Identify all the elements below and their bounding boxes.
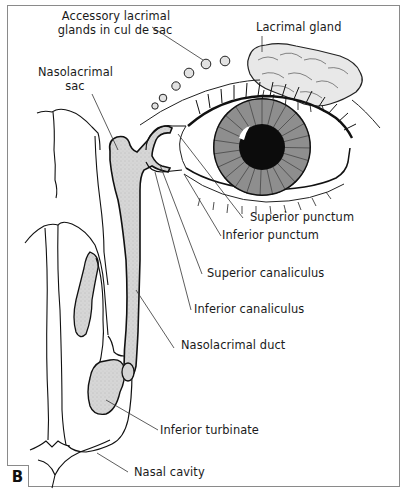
label-lacrimal-gland: Lacrimal gland <box>256 21 342 34</box>
middle-turbinate <box>74 252 98 337</box>
label-superior-punctum: Superior punctum <box>250 211 354 224</box>
duct-opening <box>122 363 134 381</box>
label-accessory-glands-line2: glands in cul de sac <box>48 24 182 37</box>
label-nasolacrimal-duct: Nasolacrimal duct <box>181 339 285 352</box>
label-superior-canaliculus: Superior canaliculus <box>207 267 324 280</box>
label-nasal-cavity: Nasal cavity <box>134 466 205 479</box>
leader-lines <box>92 27 262 472</box>
label-nasolacrimal-sac-line1: Nasolacrimal <box>38 66 112 79</box>
label-inferior-turbinate: Inferior turbinate <box>160 424 259 437</box>
label-nasolacrimal-sac-line2: sac <box>38 80 112 93</box>
label-accessory-glands-line1: Accessory lacrimal <box>54 10 178 23</box>
nasal-bone-outline <box>25 109 110 488</box>
accessory-lacrimal-glands <box>152 56 230 109</box>
inferior-turbinate <box>88 360 125 415</box>
label-inferior-punctum: Inferior punctum <box>222 229 319 242</box>
label-inferior-canaliculus: Inferior canaliculus <box>194 303 304 316</box>
panel-label: B <box>7 465 29 487</box>
nasolacrimal-sac-duct <box>110 126 172 378</box>
